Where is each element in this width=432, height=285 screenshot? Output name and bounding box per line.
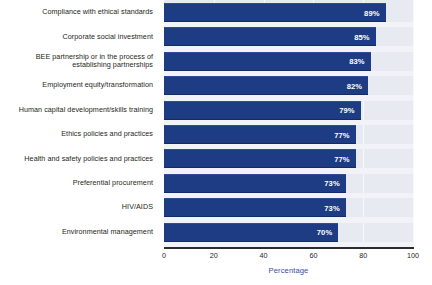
x-tick-label: 60 — [309, 251, 317, 260]
bar-row[interactable]: 73% — [164, 174, 413, 193]
category-label: Ethics policies and practices — [0, 130, 158, 139]
category-label: Corporate social investment — [0, 33, 158, 42]
category-label: Health and safety policies and practices — [0, 155, 158, 164]
bar-row[interactable]: 83% — [164, 52, 413, 71]
bar-row[interactable]: 89% — [164, 3, 413, 22]
x-axis-line — [164, 247, 414, 249]
plot-area: 89%85%83%82%79%77%77%73%73%70% — [164, 0, 413, 247]
bar-row[interactable]: 73% — [164, 198, 413, 217]
bar-chart: Compliance with ethical standardsCorpora… — [0, 0, 432, 285]
bar[interactable] — [164, 76, 368, 95]
x-tick-label: 80 — [359, 251, 367, 260]
x-tick-label: 20 — [210, 251, 218, 260]
category-label: Environmental management — [0, 228, 158, 237]
bar-value-label: 77% — [328, 154, 350, 163]
bar-value-label: 77% — [328, 130, 350, 139]
bar-value-label: 83% — [343, 57, 365, 66]
x-tick-label: 100 — [407, 251, 419, 260]
bar-row[interactable]: 77% — [164, 125, 413, 144]
category-label: BEE partnership or in the process of est… — [0, 53, 158, 70]
bar[interactable] — [164, 101, 361, 120]
bar-value-label: 73% — [318, 179, 340, 188]
bar-value-label: 79% — [333, 106, 355, 115]
bar-row[interactable]: 85% — [164, 27, 413, 46]
category-labels: Compliance with ethical standardsCorpora… — [0, 3, 158, 247]
category-label: HIV/AIDS — [0, 203, 158, 212]
x-axis-title: Percentage — [164, 266, 413, 275]
bar[interactable] — [164, 52, 371, 71]
category-label: Preferential procurement — [0, 179, 158, 188]
gridline — [413, 0, 414, 247]
bar[interactable] — [164, 3, 386, 22]
bar[interactable] — [164, 27, 376, 46]
bar-row[interactable]: 70% — [164, 223, 413, 242]
x-tick-label: 40 — [260, 251, 268, 260]
category-label: Human capital development/skills trainin… — [0, 106, 158, 115]
x-tick-label: 0 — [162, 251, 166, 260]
bar-value-label: 85% — [348, 32, 370, 41]
category-label: Employment equity/transformation — [0, 81, 158, 90]
bar-row[interactable]: 77% — [164, 149, 413, 168]
bar-row[interactable]: 82% — [164, 76, 413, 95]
bar-value-label: 70% — [310, 228, 332, 237]
category-label: Compliance with ethical standards — [0, 8, 158, 17]
bar-value-label: 73% — [318, 203, 340, 212]
bar-row[interactable]: 79% — [164, 101, 413, 120]
bar-value-label: 89% — [358, 8, 380, 17]
bar-value-label: 82% — [340, 81, 362, 90]
bars-container: 89%85%83%82%79%77%77%73%73%70% — [164, 0, 413, 247]
